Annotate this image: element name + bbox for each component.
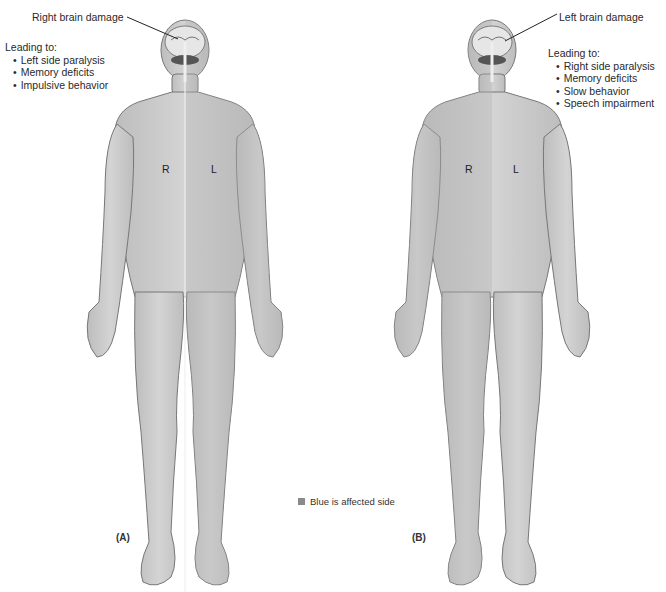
side-label-l: L [513,163,519,175]
legend: Blue is affected side [298,496,395,507]
effect-item: Left side paralysis [13,54,108,67]
effect-item: Slow behavior [556,85,655,98]
effect-item: Right side paralysis [556,60,655,73]
leading-title: Leading to: [5,41,108,54]
callout-right-brain-damage: Right brain damage [32,11,124,23]
effect-item: Impulsive behavior [13,79,108,92]
effects-list-b: Leading to: Right side paralysis Memory … [548,47,655,110]
effect-item: Memory deficits [13,66,108,79]
effects-list-a: Leading to: Left side paralysis Memory d… [5,41,108,91]
side-label-l: L [211,163,217,175]
effect-item: Speech impairment [556,97,655,110]
panel-label-b: (B) [412,532,426,543]
effect-item: Memory deficits [556,72,655,85]
leading-title: Leading to: [548,47,655,60]
side-label-r: R [162,163,170,175]
callout-left-brain-damage: Left brain damage [559,11,644,23]
legend-label: Blue is affected side [310,496,395,507]
panel-label-a: (A) [116,532,130,543]
side-label-r: R [465,163,473,175]
legend-swatch [298,498,305,505]
